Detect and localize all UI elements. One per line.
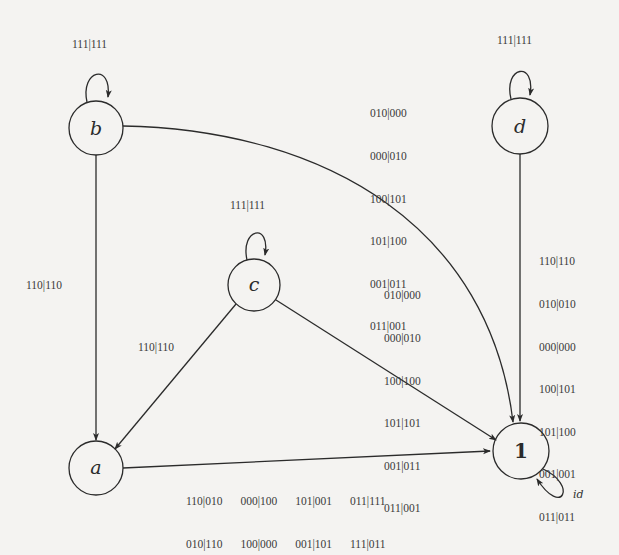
edge-label-line: 110|110 — [539, 254, 576, 268]
loop-c — [246, 233, 266, 260]
edge-b-to-a-label: 110|110 — [26, 278, 62, 292]
edge-label-line: 101|101 — [384, 416, 421, 430]
edge-c-to-a — [115, 304, 236, 449]
node-a-label: a — [90, 456, 101, 478]
node-one-label: 1 — [514, 439, 528, 463]
edge-label-line: 101|100 — [370, 234, 407, 248]
loop-b — [86, 74, 108, 102]
edge-c-to-one-labels: 010|000 000|010 100|100 101|101 001|011 … — [384, 260, 421, 530]
edge-label-item: 011|111 — [350, 494, 386, 508]
edge-label-item: 100|000 — [240, 537, 277, 551]
edge-d-to-one-labels: 110|110 010|010 000|000 100|101 101|100 … — [539, 226, 576, 538]
loop-c-label: 111|111 — [230, 198, 265, 212]
edge-label-item: 010|110 — [186, 537, 222, 551]
edge-label-line: 011|011 — [539, 510, 576, 524]
edge-a-to-one-labels: 110|010 000|100 101|001 011|111 010|110 … — [186, 466, 386, 555]
edge-label-line: 001|011 — [384, 459, 421, 473]
edge-label-item: 001|101 — [295, 537, 332, 551]
edge-label-line: 011|001 — [384, 501, 421, 515]
edge-label-line: 010|000 — [370, 106, 407, 120]
edge-label-item: 101|001 — [295, 494, 332, 508]
node-c-label: c — [249, 273, 260, 295]
loop-b-label: 111|111 — [72, 37, 107, 51]
node-b-label: b — [90, 117, 102, 139]
node-d-label: d — [514, 115, 526, 137]
edge-label-row: 010|110 100|000 001|101 111|011 — [186, 537, 386, 551]
edge-label-line: 100|101 — [539, 382, 576, 396]
edge-label-line: 010|010 — [539, 297, 576, 311]
edge-label-row: 110|010 000|100 101|001 011|111 — [186, 494, 386, 508]
edge-c-to-a-label: 110|110 — [138, 340, 174, 354]
edge-label-line: 010|000 — [384, 288, 421, 302]
edge-label-line: 001|001 — [539, 467, 576, 481]
edge-label-item: 110|010 — [186, 494, 222, 508]
edge-label-item: 111|011 — [350, 537, 386, 551]
edge-label-line: 100|101 — [370, 192, 407, 206]
edge-label-line: 000|000 — [539, 340, 576, 354]
edge-label-line: 101|100 — [539, 425, 576, 439]
edge-b-to-one — [123, 126, 513, 422]
edge-label-line: 000|010 — [370, 149, 407, 163]
loop-d-label: 111|111 — [497, 33, 532, 47]
edge-label-line: 000|010 — [384, 331, 421, 345]
edge-label-line: 100|100 — [384, 374, 421, 388]
loop-d — [510, 71, 531, 99]
edge-label-item: 000|100 — [240, 494, 277, 508]
